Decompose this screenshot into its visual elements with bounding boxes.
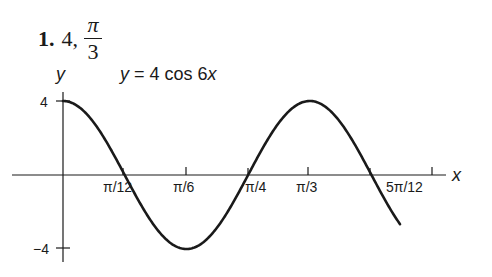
x-tick-label-pi-4: π/4 bbox=[245, 179, 267, 195]
x-tick-label-pi-12: π/12 bbox=[103, 179, 132, 195]
x-tick-label-pi-3: π/3 bbox=[296, 179, 318, 195]
y-axis-label: y bbox=[54, 64, 66, 84]
y-tick-label-neg4: −4 bbox=[33, 241, 49, 257]
x-tick-label-pi-6: π/6 bbox=[173, 179, 195, 195]
y-tick-label-4: 4 bbox=[40, 94, 48, 110]
cosine-graph: 4 −4 π/12 π/6 π/4 π/3 5π/12 x y y = 4 co… bbox=[0, 0, 492, 277]
x-ticks bbox=[123, 167, 432, 175]
equation-title: y = 4 cos 6x bbox=[118, 64, 218, 84]
x-axis-label: x bbox=[451, 165, 462, 185]
x-tick-label-5pi-12: 5π/12 bbox=[386, 179, 423, 195]
